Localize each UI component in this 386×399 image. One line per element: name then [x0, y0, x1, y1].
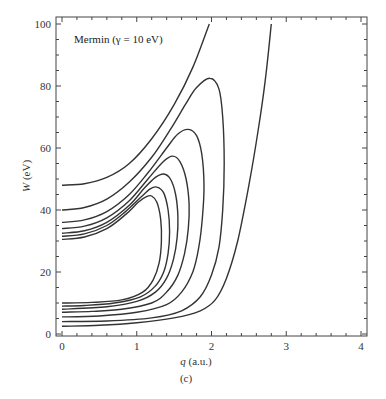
x-tick-label: 0 [59, 340, 65, 352]
axis-ticks [56, 17, 367, 336]
chart: 01234020406080100 Mermin (γ = 10 eV) q (… [0, 0, 386, 399]
x-axis-variable: q [180, 355, 186, 367]
curve-4 [62, 174, 178, 309]
curve-1 [62, 78, 224, 321]
y-tick-label: 100 [35, 18, 52, 30]
x-tick-label: 3 [284, 340, 290, 352]
annotation-label: Mermin (γ = 10 eV) [74, 33, 163, 46]
x-tick-label: 1 [134, 340, 140, 352]
x-tick-label: 4 [358, 340, 364, 352]
x-axis-unit: (a.u.) [189, 355, 213, 368]
y-tick-label: 60 [40, 142, 52, 154]
y-axis-label: W (eV) [20, 160, 33, 192]
y-tick-label: 0 [46, 328, 52, 340]
x-tick-label: 2 [209, 340, 215, 352]
y-tick-label: 40 [40, 204, 52, 216]
curves [62, 24, 271, 326]
curve-0 [62, 24, 209, 185]
x-axis-label: q (a.u.) [180, 355, 212, 368]
curve-6 [62, 196, 162, 303]
curve-2 [62, 129, 204, 317]
y-tick-label: 80 [40, 80, 52, 92]
y-axis-unit: (eV) [20, 160, 33, 180]
curve-5 [62, 187, 170, 306]
panel-label: (c) [180, 372, 193, 385]
plot-frame [56, 17, 367, 336]
axis-tick-labels: 01234020406080100 [35, 18, 365, 352]
y-tick-label: 20 [40, 266, 52, 278]
y-axis-variable: W [20, 182, 32, 192]
